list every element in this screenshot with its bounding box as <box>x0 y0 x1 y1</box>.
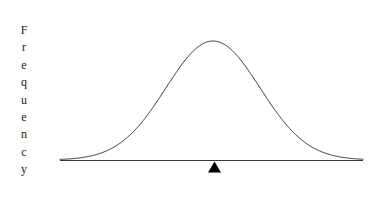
normal-distribution-curve <box>60 41 363 159</box>
plot-area <box>0 0 379 199</box>
mean-marker-triangle <box>208 162 221 173</box>
distribution-plot-svg <box>0 0 379 199</box>
figure-canvas: F r e q u e n c y <box>0 0 379 199</box>
